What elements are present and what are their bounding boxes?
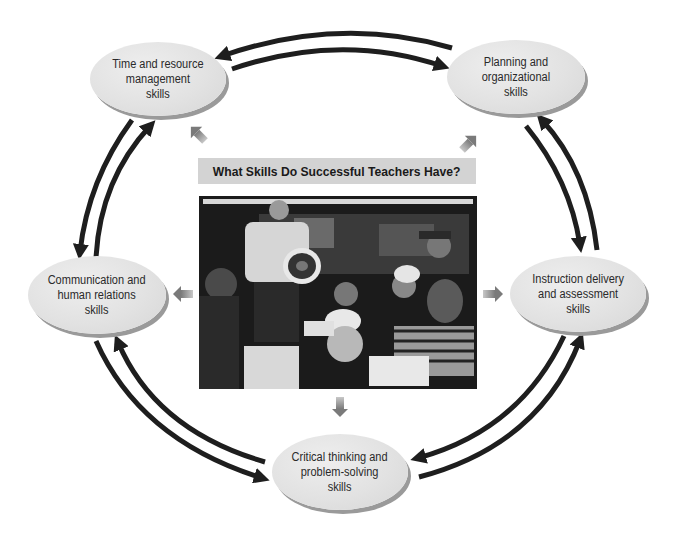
node-label: Time and resource management skills <box>112 57 203 102</box>
center-arrow-to-critical <box>332 397 348 417</box>
arrow-communication-to-time <box>96 126 150 258</box>
arrow-instruction-to-planning <box>542 120 597 250</box>
classroom-photo <box>199 196 477 389</box>
photo-illustration <box>199 196 477 389</box>
node-label: Critical thinking and problem-solving sk… <box>292 450 388 495</box>
node-label: Communication and human relations skills <box>48 273 146 318</box>
center-arrow-to-time <box>185 121 210 146</box>
node-critical-thinking-problem-solving: Critical thinking and problem-solving sk… <box>272 434 408 510</box>
node-label: Planning and organizational skills <box>482 55 551 100</box>
arrow-time-to-planning <box>232 50 442 69</box>
center-arrow-to-planning <box>456 130 481 155</box>
node-instruction-delivery-assessment: Instruction delivery and assessment skil… <box>510 256 646 332</box>
arrow-planning-to-time <box>222 33 452 56</box>
node-communication-human-relations: Communication and human relations skills <box>28 256 166 334</box>
node-label: Instruction delivery and assessment skil… <box>532 272 624 317</box>
center-arrow-to-communication <box>173 286 193 302</box>
diagram-title-bar: What Skills Do Successful Teachers Have? <box>198 158 476 184</box>
diagram-title: What Skills Do Successful Teachers Have? <box>213 164 461 179</box>
arrow-planning-to-instruction <box>526 126 580 245</box>
center-arrow-to-instruction <box>483 286 503 302</box>
node-time-resource-management: Time and resource management skills <box>90 42 226 116</box>
node-planning-organizational: Planning and organizational skills <box>447 40 585 114</box>
arrow-time-to-communication <box>80 120 132 252</box>
skills-cycle-diagram: What Skills Do Successful Teachers Have? <box>0 0 677 538</box>
